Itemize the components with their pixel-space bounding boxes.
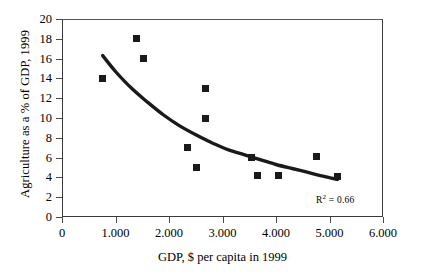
y-tick-label-text: 4 — [6, 171, 52, 183]
x-tick-label: 3.000 — [193, 226, 253, 241]
y-tick-label-text: 0 — [6, 211, 52, 223]
y-tick-label: 8 — [0, 132, 52, 144]
x-axis-title: GDP, $ per capita in 1999 — [62, 250, 383, 265]
x-tick-label: 5.000 — [300, 226, 360, 241]
y-tick-label-text: 14 — [6, 72, 52, 84]
x-tick-label-text: 5.000 — [300, 226, 360, 241]
data-point-marker — [193, 164, 200, 171]
y-tick-label: 12 — [0, 92, 52, 104]
y-tick-label: 16 — [0, 53, 52, 65]
plot-area — [62, 19, 383, 217]
data-point-marker — [133, 35, 140, 42]
data-point-marker — [275, 172, 282, 179]
x-tick — [223, 217, 224, 223]
x-tick — [169, 217, 170, 223]
data-point-marker — [99, 75, 106, 82]
x-tick-label: 1.000 — [86, 226, 146, 241]
data-point-marker — [254, 172, 261, 179]
y-tick-label: 4 — [0, 171, 52, 183]
x-tick-label: 0 — [32, 226, 92, 241]
x-tick-label-text: 4.000 — [246, 226, 306, 241]
y-tick-label-text: 16 — [6, 53, 52, 65]
data-point-marker — [334, 173, 341, 180]
x-tick-label-text: 2.000 — [139, 226, 199, 241]
scatter-chart: Agriculture as a % of GDP, 1999 02468101… — [0, 0, 423, 280]
x-tick-label: 6.000 — [353, 226, 413, 241]
x-tick-label: 2.000 — [139, 226, 199, 241]
y-tick-label: 10 — [0, 112, 52, 124]
y-tick-label-text: 8 — [6, 132, 52, 144]
x-tick-label: 4.000 — [246, 226, 306, 241]
x-tick — [116, 217, 117, 223]
y-tick-label-text: 18 — [6, 33, 52, 45]
r-squared-value: = 0.66 — [326, 195, 354, 205]
x-tick-label-text: 3.000 — [193, 226, 253, 241]
y-tick-label: 14 — [0, 72, 52, 84]
y-tick-label: 18 — [0, 33, 52, 45]
y-tick-label: 2 — [0, 191, 52, 203]
data-point-marker — [202, 85, 209, 92]
data-point-marker — [184, 144, 191, 151]
y-tick-label-text: 6 — [6, 152, 52, 164]
y-tick-label-text: 20 — [6, 13, 52, 25]
data-point-marker — [202, 115, 209, 122]
x-tick-label-text: 6.000 — [353, 226, 413, 241]
y-tick-label: 6 — [0, 152, 52, 164]
data-point-marker — [140, 55, 147, 62]
data-point-marker — [313, 153, 320, 160]
y-tick-label-text: 10 — [6, 112, 52, 124]
r-squared-annotation: R2 = 0.66 — [316, 193, 354, 205]
x-tick — [383, 217, 384, 223]
data-point-marker — [248, 154, 255, 161]
x-tick — [276, 217, 277, 223]
x-tick — [330, 217, 331, 223]
x-tick-label-text: 1.000 — [86, 226, 146, 241]
y-tick-label: 20 — [0, 13, 52, 25]
y-tick-label-text: 2 — [6, 191, 52, 203]
x-tick — [62, 217, 63, 223]
x-tick-label-text: 0 — [32, 226, 92, 241]
y-tick-label: 0 — [0, 211, 52, 223]
y-tick-label-text: 12 — [6, 92, 52, 104]
